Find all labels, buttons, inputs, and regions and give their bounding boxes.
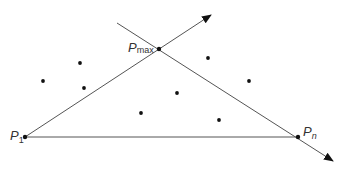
quickhull-diagram: P1 Pn Pmax: [0, 0, 346, 169]
scatter-point: [247, 79, 251, 83]
scatter-point: [206, 56, 210, 60]
label-pn: Pn: [303, 124, 317, 141]
label-pmax: Pmax: [128, 40, 154, 55]
scatter-point: [41, 79, 45, 83]
ray-p1-pmax: [25, 15, 211, 137]
label-p1: P1: [10, 128, 24, 145]
point-pmax: [157, 47, 161, 51]
scatter-point: [217, 118, 221, 122]
ray-pmax-pn: [117, 23, 333, 161]
scatter-point: [78, 61, 82, 65]
scatter-point: [175, 91, 179, 95]
point-pn: [296, 135, 300, 139]
scatter-point: [139, 111, 143, 115]
scatter-point: [82, 86, 86, 90]
